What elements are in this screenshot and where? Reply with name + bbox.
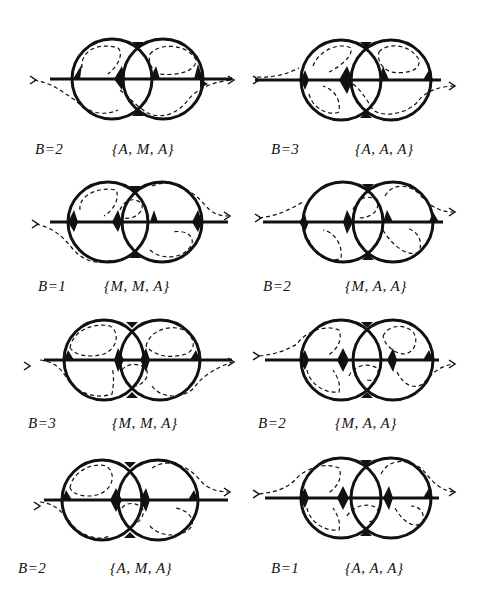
set-label: {M, A, A} xyxy=(345,278,407,295)
double-loop-diagram xyxy=(243,310,487,460)
b-value-label: B=2 xyxy=(35,141,63,158)
diagram-panel-8: B=1 {A, A, A} xyxy=(243,450,486,610)
set-label: {M, M, A} xyxy=(112,415,177,432)
b-value-label: B=1 xyxy=(271,560,299,577)
set-label: {A, A, A} xyxy=(345,560,403,577)
set-label: {M, A, A} xyxy=(335,415,397,432)
double-loop-diagram xyxy=(243,450,487,610)
b-value-label: B=2 xyxy=(18,560,46,577)
diagram-panel-6: B=2 {M, A, A} xyxy=(243,310,486,460)
set-label: {A, M, A} xyxy=(112,141,174,158)
diagram-panel-1: B=2 {A, M, A} xyxy=(0,0,243,170)
diagram-panel-5: B=3 {M, M, A} xyxy=(0,310,243,460)
diagram-panel-3: B=1 {M, M, A} xyxy=(0,160,243,310)
set-label: {A, A, A} xyxy=(355,141,413,158)
diagram-panel-2: B=3 {A, A, A} xyxy=(243,0,486,170)
b-value-label: B=3 xyxy=(271,141,299,158)
double-loop-diagram xyxy=(0,450,243,610)
b-value-label: B=1 xyxy=(38,278,66,295)
diagram-panel-4: B=2 {M, A, A} xyxy=(243,160,486,310)
set-label: {A, M, A} xyxy=(110,560,172,577)
diagram-panel-7: B=2 {A, M, A} xyxy=(0,450,243,610)
double-loop-diagram xyxy=(0,310,243,460)
b-value-label: B=2 xyxy=(258,415,286,432)
set-label: {M, M, A} xyxy=(104,278,169,295)
b-value-label: B=3 xyxy=(28,415,56,432)
b-value-label: B=2 xyxy=(263,278,291,295)
